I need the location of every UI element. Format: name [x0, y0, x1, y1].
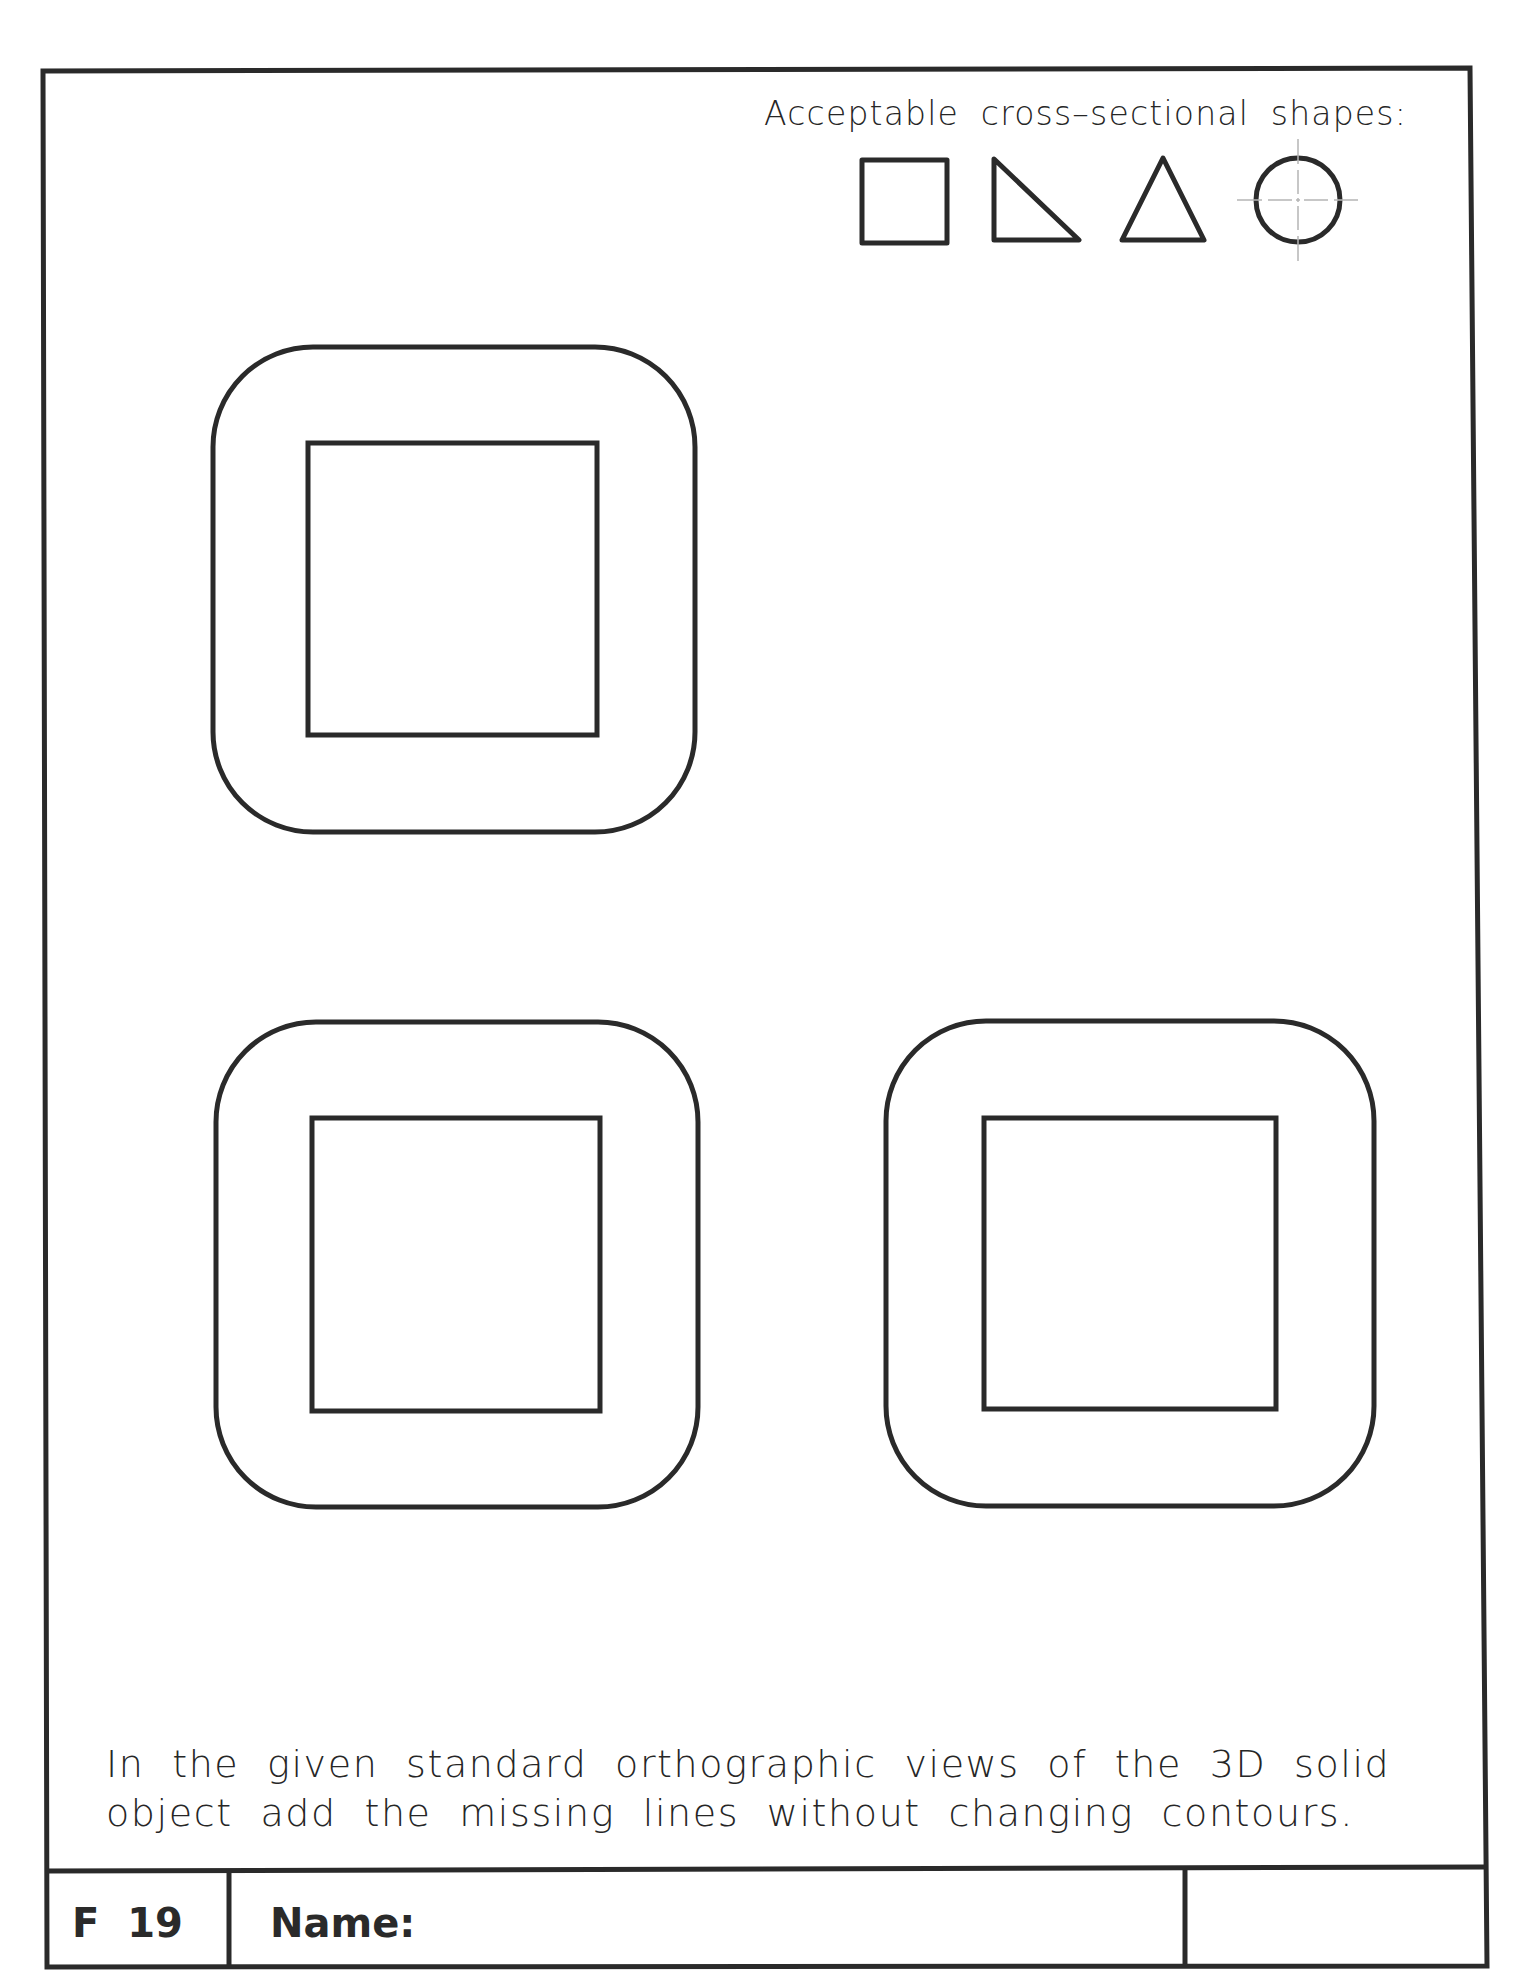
- outer-rounded-contour: [886, 1021, 1374, 1506]
- name-input[interactable]: [420, 1878, 1174, 1964]
- sheet-frame: [43, 68, 1487, 1967]
- acceptable-shapes-heading: Acceptable cross–sectional shapes:: [764, 94, 1407, 133]
- orthographic-views: [213, 347, 1374, 1507]
- square-shape-icon: [862, 160, 947, 243]
- outer-rounded-contour: [216, 1022, 698, 1507]
- title-block-top-line: [45, 1867, 1485, 1871]
- inner-square-contour: [312, 1118, 600, 1411]
- frame-border: [43, 68, 1487, 1967]
- title-block-extra-field[interactable]: [1192, 1878, 1484, 1964]
- name-label: Name:: [270, 1900, 415, 1946]
- inner-square-contour: [308, 443, 597, 735]
- acceptable-shapes: [862, 139, 1358, 261]
- instructions-line-1: In the given standard orthographic views…: [106, 1742, 1390, 1786]
- circle-shape-icon: [1237, 139, 1358, 261]
- drawing-sheet: Acceptable cross–sectional shapes: In th…: [0, 0, 1527, 1984]
- outer-rounded-contour: [213, 347, 695, 832]
- side-view: [886, 1021, 1374, 1506]
- sheet-id-label: F 19: [72, 1900, 183, 1946]
- inner-square-contour: [984, 1118, 1276, 1409]
- right-triangle-shape-icon: [994, 159, 1079, 240]
- centerline-cross-icon: [1237, 139, 1358, 261]
- instructions-line-2: object add the missing lines without cha…: [106, 1791, 1354, 1835]
- top-view: [213, 347, 695, 832]
- triangle-shape-icon: [1122, 158, 1204, 240]
- drawing-canvas: [0, 0, 1527, 1984]
- front-view: [216, 1022, 698, 1507]
